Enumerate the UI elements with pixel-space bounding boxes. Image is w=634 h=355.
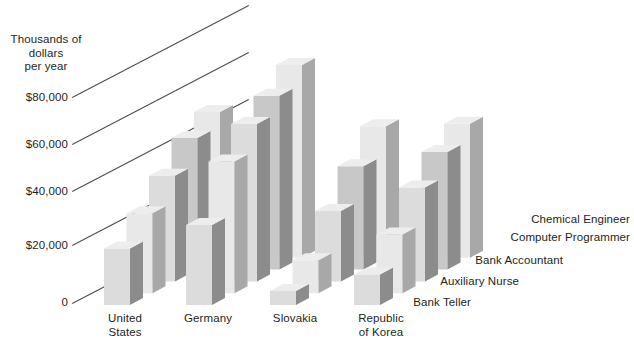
bar-republic-of-korea-bank-teller <box>0 0 634 355</box>
bars-layer <box>0 0 634 355</box>
category-label-germany: Germany <box>168 312 248 326</box>
series-label-computer-programmer: Computer Programmer <box>394 231 630 243</box>
chart-canvas: Thousands of dollars per year $80,000 $6… <box>0 0 634 355</box>
series-label-auxiliary-nurse: Auxiliary Nurse <box>352 275 519 287</box>
series-label-chemical-engineer: Chemical Engineer <box>394 213 630 225</box>
category-label-republic-of-korea: Republic of Korea <box>340 312 422 339</box>
category-label-united-states: United States <box>88 312 162 339</box>
series-label-bank-teller: Bank Teller <box>330 296 471 308</box>
category-label-slovakia: Slovakia <box>256 312 334 326</box>
series-label-bank-accountant: Bank Accountant <box>374 254 563 266</box>
